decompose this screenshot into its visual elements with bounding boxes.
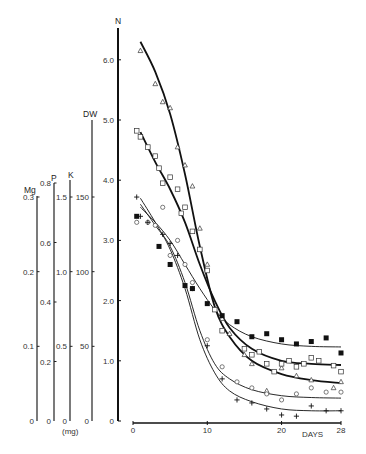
circle-marker: [279, 398, 283, 402]
triangle-marker: [138, 48, 143, 52]
open-square-marker: [190, 229, 195, 234]
triangle-marker: [190, 184, 195, 188]
filled-square-marker: [205, 301, 210, 306]
triangle-marker: [294, 373, 299, 377]
k-axis-tick-label: 0: [63, 417, 68, 426]
open-square-marker: [212, 307, 217, 312]
triangle-marker: [153, 81, 158, 85]
n-axis-tick-label: 1.0: [103, 357, 115, 366]
plus-marker: [175, 253, 180, 258]
plus-marker: [264, 406, 269, 411]
circle-marker: [190, 280, 194, 284]
plus-marker: [294, 414, 299, 419]
plus-marker: [145, 220, 150, 225]
figure: 00.10.20.300.20.40.60.800.51.01.50501001…: [0, 0, 366, 454]
n-axis-tick-label: 0: [110, 417, 115, 426]
filled-square-marker: [157, 244, 162, 249]
plus-marker: [234, 397, 239, 402]
curve-circle-open: [140, 204, 341, 398]
plus-marker: [279, 412, 284, 417]
open-square-marker: [160, 181, 165, 186]
open-square-marker: [175, 187, 180, 192]
open-square-marker: [220, 328, 225, 333]
open-square-marker: [264, 362, 269, 367]
circle-marker: [220, 365, 224, 369]
days-axis-tick-label: 10: [203, 426, 212, 435]
n-axis-tick-label: 6.0: [103, 56, 115, 65]
circle-marker: [153, 223, 157, 227]
p-axis-tick-label: 0.8: [40, 179, 52, 188]
open-square-marker: [183, 205, 188, 210]
p-axis-tick-label: 0: [47, 417, 52, 426]
units-label: (mg): [62, 427, 79, 436]
circle-marker: [309, 386, 313, 390]
open-square-marker: [287, 359, 292, 364]
n-axis-tick-label: 2.0: [103, 297, 115, 306]
circle-marker: [265, 392, 269, 396]
circle-marker: [161, 205, 165, 209]
filled-square-marker: [235, 319, 240, 324]
filled-square-marker: [279, 337, 284, 342]
filled-square-marker: [324, 335, 329, 340]
triangle-marker: [160, 99, 165, 103]
open-square-marker: [134, 129, 139, 134]
filled-square-marker: [264, 331, 269, 336]
days-axis-tick-label: 0: [131, 426, 136, 435]
filled-square-marker: [249, 334, 254, 339]
open-square-marker: [250, 352, 255, 357]
plus-marker: [324, 408, 329, 413]
filled-square-marker: [220, 313, 225, 318]
curve-square-filled: [140, 207, 341, 347]
open-square-marker: [153, 154, 158, 159]
days-label: DAYS: [302, 430, 323, 439]
days-axis-tick-label: 20: [277, 426, 286, 435]
circle-marker: [294, 392, 298, 396]
mg-axis-tick-label: 0.1: [23, 342, 35, 351]
filled-square-marker: [183, 283, 188, 288]
dw-axis-tick-label: 100: [76, 268, 90, 277]
open-square-marker: [138, 135, 143, 140]
open-square-marker: [331, 363, 336, 368]
open-square-marker: [302, 362, 307, 367]
plus-marker: [134, 194, 139, 199]
plus-marker: [309, 403, 314, 408]
circle-marker: [135, 220, 139, 224]
open-square-marker: [198, 247, 203, 252]
open-square-marker: [179, 211, 184, 216]
mg-axis-tick-label: 0.2: [23, 268, 35, 277]
dw-axis-tick-label: 0: [85, 417, 90, 426]
filled-square-marker: [309, 339, 314, 344]
plus-marker: [338, 408, 343, 413]
mg-axis-title: Mg: [24, 185, 36, 195]
dw-axis-title: DW: [83, 109, 97, 119]
open-square-marker: [279, 362, 284, 367]
mg-axis-tick-label: 0: [30, 417, 35, 426]
open-square-marker: [294, 365, 299, 370]
k-axis-tick-label: 1.5: [56, 193, 68, 202]
circle-marker: [175, 238, 179, 242]
circle-marker: [250, 386, 254, 390]
open-square-marker: [339, 369, 344, 374]
circle-marker: [324, 390, 328, 394]
triangle-marker: [197, 226, 202, 230]
curve-square-open: [140, 132, 341, 365]
open-square-marker: [257, 349, 262, 354]
n-axis-title: N: [115, 16, 121, 26]
triangle-marker: [205, 262, 210, 266]
circle-marker: [205, 338, 209, 342]
p-axis-title: P: [51, 173, 57, 183]
triangle-marker: [339, 379, 344, 383]
circle-marker: [168, 253, 172, 257]
n-axis-tick-label: 3.0: [103, 236, 115, 245]
open-square-marker: [272, 369, 277, 374]
circle-marker: [339, 390, 343, 394]
triangle-marker: [331, 385, 336, 389]
open-square-marker: [205, 268, 210, 273]
p-axis-tick-label: 0.6: [40, 239, 52, 248]
open-square-marker: [146, 145, 151, 150]
open-square-marker: [157, 166, 162, 171]
open-square-marker: [309, 355, 314, 360]
circle-marker: [183, 262, 187, 266]
secondary-axes: 00.10.20.300.20.40.60.800.51.01.50501001…: [23, 120, 95, 426]
p-axis-tick-label: 0.2: [40, 358, 52, 367]
